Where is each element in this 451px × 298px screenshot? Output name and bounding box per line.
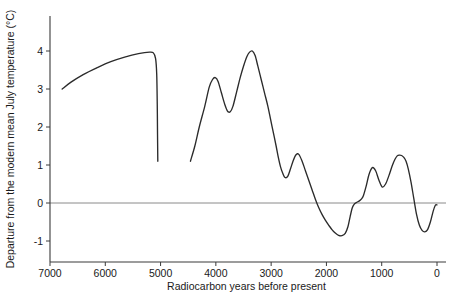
x-tick-label: 0 [434, 267, 440, 279]
x-axis-ticks: 70006000500040003000200010000 [38, 262, 440, 279]
y-tick-label: 2 [37, 121, 43, 133]
y-axis: -101234 Departure from the modern mean J… [4, 10, 50, 269]
x-tick-label: 1000 [370, 267, 394, 279]
x-tick-label: 5000 [149, 267, 173, 279]
x-axis: 70006000500040003000200010000 Radiocarbo… [38, 262, 446, 292]
y-axis-ticks: -101234 [34, 45, 50, 247]
y-tick-label: -1 [34, 235, 43, 247]
paleotemperature-line-chart: -101234 Departure from the modern mean J… [0, 0, 451, 298]
y-tick-label: 3 [37, 83, 43, 95]
x-tick-label: 4000 [204, 267, 228, 279]
x-tick-label: 7000 [38, 267, 62, 279]
chart-figure: -101234 Departure from the modern mean J… [0, 0, 451, 298]
x-axis-title: Radiocarbon years before present [167, 280, 326, 292]
x-tick-label: 6000 [94, 267, 118, 279]
y-tick-label: 1 [37, 159, 43, 171]
temperature-curve [190, 51, 437, 236]
y-tick-label: 4 [37, 45, 43, 57]
temperature-curve [62, 52, 158, 161]
y-tick-label: 0 [37, 197, 43, 209]
x-tick-label: 2000 [315, 267, 339, 279]
x-tick-label: 3000 [259, 267, 283, 279]
y-axis-title: Departure from the modern mean July temp… [4, 10, 16, 269]
data-series-group [62, 51, 437, 236]
